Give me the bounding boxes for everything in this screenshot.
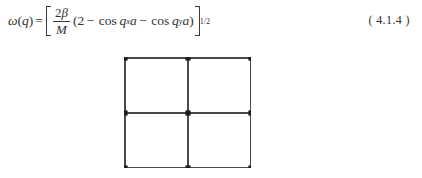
- equals-sign: =: [35, 13, 43, 29]
- lattice-diagram: [124, 57, 251, 168]
- group-close-paren: ): [189, 13, 194, 29]
- cos-x-lattice-constant: a: [130, 13, 137, 29]
- beta-symbol: β: [61, 5, 67, 20]
- lattice-node-3: [124, 110, 128, 115]
- lattice-node-0: [124, 57, 128, 61]
- minus-sign-first: −: [87, 13, 95, 29]
- cosine-function-y: cos: [151, 13, 169, 29]
- cos-y-variable: q: [172, 13, 179, 29]
- exponent-one-half: 1/2: [200, 17, 210, 26]
- lattice-node-8: [248, 165, 251, 168]
- equation-number: ( 4.1.4 ): [368, 13, 410, 28]
- equation-line: ω(q) = 2β M (2−cos qxa−cos qya) 1/2 ( 4.…: [0, 0, 422, 44]
- constant-two: 2: [77, 13, 84, 29]
- lattice-node-2: [248, 57, 251, 61]
- page-root: ω(q) = 2β M (2−cos qxa−cos qya) 1/2 ( 4.…: [0, 0, 422, 178]
- lattice-node-6: [124, 165, 128, 168]
- left-square-bracket: [46, 6, 51, 36]
- lhs-close-paren: ): [29, 13, 34, 29]
- lattice-node-7: [185, 165, 190, 168]
- fraction-numerator: 2β: [53, 6, 70, 20]
- lattice-node-1: [185, 57, 190, 61]
- omega-symbol: ω: [8, 13, 18, 29]
- lattice-node-4: [185, 110, 190, 115]
- equation-expression: ω(q) = 2β M (2−cos qxa−cos qya) 1/2: [8, 6, 210, 36]
- lattice-svg: [124, 57, 251, 168]
- minus-sign-second: −: [139, 13, 147, 29]
- wavevector-variable: q: [22, 13, 29, 29]
- cos-y-lattice-constant: a: [183, 13, 190, 29]
- fraction-two-beta-over-m: 2β M: [53, 6, 70, 36]
- lattice-node-5: [248, 110, 251, 115]
- fraction-denominator: M: [54, 22, 69, 36]
- cosine-function-x: cos: [99, 13, 117, 29]
